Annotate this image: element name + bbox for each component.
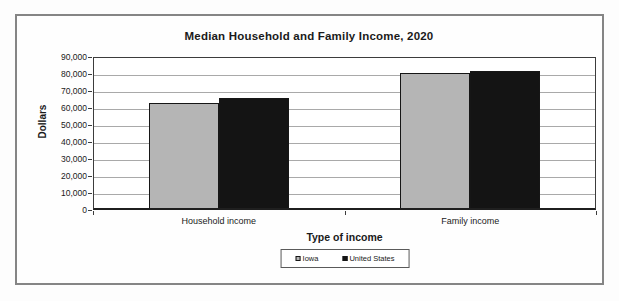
legend-marker-icon bbox=[296, 256, 301, 261]
bar-group-household-income bbox=[149, 58, 289, 208]
x-tick-mark bbox=[93, 211, 94, 215]
y-tick-label: 10,000 bbox=[31, 188, 87, 198]
x-category-label: Household income bbox=[139, 216, 299, 226]
legend-label: United States bbox=[349, 254, 394, 263]
x-category-label: Family income bbox=[390, 216, 550, 226]
y-tick-label: 20,000 bbox=[31, 171, 87, 181]
legend-marker-icon bbox=[342, 256, 347, 261]
legend-entry-iowa: Iowa bbox=[296, 254, 319, 263]
y-tick-mark bbox=[88, 108, 92, 109]
bar-iowa bbox=[149, 103, 219, 208]
y-tick-mark bbox=[88, 125, 92, 126]
chart-title: Median Household and Family Income, 2020 bbox=[16, 30, 602, 42]
legend: IowaUnited States bbox=[281, 249, 410, 268]
plot-area bbox=[93, 57, 596, 210]
legend-label: Iowa bbox=[303, 254, 319, 263]
y-tick-mark bbox=[88, 91, 92, 92]
y-tick-label: 50,000 bbox=[31, 120, 87, 130]
y-axis-tick-labels: 010,00020,00030,00040,00050,00060,00070,… bbox=[31, 0, 87, 301]
bar-iowa bbox=[400, 73, 470, 208]
y-tick-mark bbox=[88, 176, 92, 177]
y-tick-label: 60,000 bbox=[31, 103, 87, 113]
x-tick-mark bbox=[345, 211, 346, 215]
bar-group-family-income bbox=[400, 58, 540, 208]
y-tick-mark bbox=[88, 193, 92, 194]
x-tick-mark bbox=[596, 211, 597, 215]
y-tick-label: 40,000 bbox=[31, 137, 87, 147]
bar-united-states bbox=[470, 71, 540, 208]
x-axis-title: Type of income bbox=[93, 231, 596, 243]
y-tick-mark bbox=[88, 210, 92, 211]
y-tick-label: 80,000 bbox=[31, 69, 87, 79]
legend-entry-united-states: United States bbox=[342, 254, 394, 263]
y-tick-mark bbox=[88, 74, 92, 75]
y-tick-label: 0 bbox=[31, 205, 87, 215]
y-tick-label: 30,000 bbox=[31, 154, 87, 164]
bar-united-states bbox=[219, 98, 289, 209]
y-tick-label: 70,000 bbox=[31, 86, 87, 96]
y-tick-mark bbox=[88, 57, 92, 58]
y-tick-mark bbox=[88, 159, 92, 160]
y-tick-mark bbox=[88, 142, 92, 143]
y-tick-label: 90,000 bbox=[31, 52, 87, 62]
